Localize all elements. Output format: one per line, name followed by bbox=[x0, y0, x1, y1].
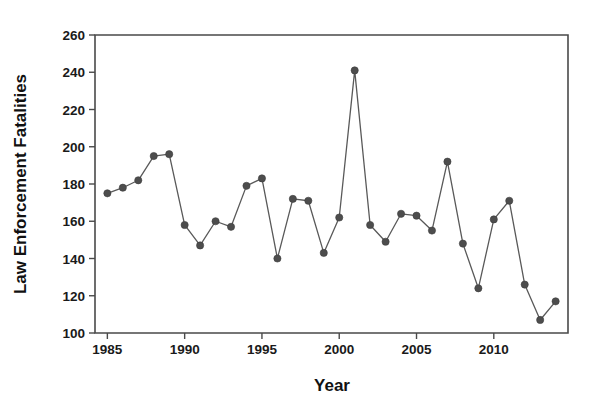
y-axis-title: Law Enforcement Fatalities bbox=[11, 74, 30, 294]
data-point bbox=[135, 177, 142, 184]
data-point bbox=[181, 221, 188, 228]
x-tick-label: 2005 bbox=[401, 342, 432, 357]
data-point bbox=[490, 216, 497, 223]
data-point bbox=[537, 316, 544, 323]
data-point bbox=[521, 281, 528, 288]
y-tick-label: 100 bbox=[62, 326, 85, 341]
data-point bbox=[444, 158, 451, 165]
data-series bbox=[104, 67, 559, 324]
y-tick-label: 240 bbox=[62, 65, 85, 80]
y-tick-label: 220 bbox=[62, 103, 85, 118]
x-tick-label: 2000 bbox=[324, 342, 354, 357]
x-tick-label: 2010 bbox=[479, 342, 509, 357]
plot-border bbox=[95, 35, 568, 333]
x-axis-ticks: 198519901995200020052010 bbox=[92, 333, 508, 357]
data-point bbox=[227, 223, 234, 230]
data-point bbox=[351, 67, 358, 74]
x-axis-title: Year bbox=[314, 376, 350, 395]
data-point bbox=[413, 212, 420, 219]
y-tick-label: 200 bbox=[62, 140, 85, 155]
x-tick-label: 1985 bbox=[92, 342, 123, 357]
y-tick-label: 140 bbox=[62, 252, 85, 267]
y-tick-label: 120 bbox=[62, 289, 85, 304]
data-point bbox=[459, 240, 466, 247]
chart-figure: 100120140160180200220240260 198519901995… bbox=[0, 0, 589, 409]
y-tick-label: 180 bbox=[62, 177, 85, 192]
data-point bbox=[367, 221, 374, 228]
data-point bbox=[552, 298, 559, 305]
data-point bbox=[506, 197, 513, 204]
data-point bbox=[243, 182, 250, 189]
data-point bbox=[475, 285, 482, 292]
y-axis-ticks: 100120140160180200220240260 bbox=[62, 28, 95, 341]
data-point bbox=[104, 190, 111, 197]
data-point bbox=[166, 151, 173, 158]
data-point bbox=[305, 197, 312, 204]
data-point bbox=[258, 175, 265, 182]
data-point bbox=[274, 255, 281, 262]
data-point bbox=[289, 195, 296, 202]
data-point bbox=[150, 152, 157, 159]
data-point bbox=[382, 238, 389, 245]
y-tick-label: 160 bbox=[62, 214, 85, 229]
data-point bbox=[336, 214, 343, 221]
x-tick-label: 1990 bbox=[170, 342, 200, 357]
data-point bbox=[212, 218, 219, 225]
data-point bbox=[197, 242, 204, 249]
data-point bbox=[320, 249, 327, 256]
series-line bbox=[107, 70, 555, 320]
line-chart: 100120140160180200220240260 198519901995… bbox=[0, 0, 589, 409]
data-point bbox=[397, 210, 404, 217]
data-point bbox=[119, 184, 126, 191]
data-point bbox=[428, 227, 435, 234]
x-tick-label: 1995 bbox=[247, 342, 278, 357]
y-tick-label: 260 bbox=[62, 28, 85, 43]
plot-frame bbox=[95, 35, 568, 333]
